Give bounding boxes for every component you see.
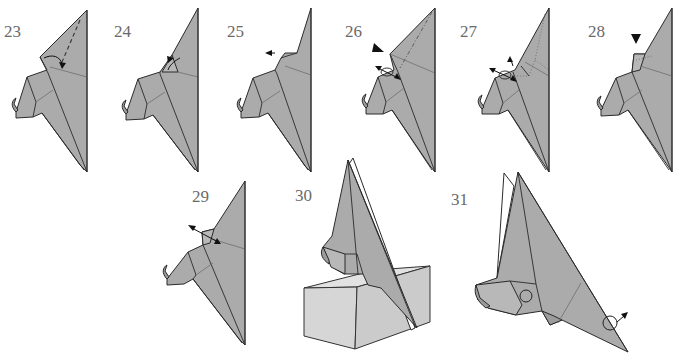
step-29-figure	[150, 175, 290, 361]
arrowhead	[265, 50, 272, 56]
bird-body	[597, 8, 672, 172]
beak	[478, 95, 484, 109]
finished-bird	[475, 172, 628, 352]
arrowhead-left	[188, 225, 196, 231]
step-27: 27	[455, 0, 570, 180]
push-arrow	[631, 34, 641, 44]
bird-body	[478, 8, 549, 172]
push-arrow	[372, 43, 384, 52]
bird-body	[122, 8, 198, 172]
step-31-figure	[440, 160, 678, 361]
bird-body	[237, 8, 311, 172]
beak	[597, 96, 603, 110]
step-23: 23	[0, 0, 110, 180]
beak	[237, 98, 243, 112]
beak	[163, 265, 169, 279]
step-30-figure	[285, 150, 445, 361]
step-28: 28	[570, 0, 678, 180]
bird-body	[12, 10, 87, 172]
box-front	[304, 287, 357, 349]
arrowhead-up	[507, 56, 513, 62]
step-31: 31	[440, 160, 678, 361]
bird-body	[362, 8, 435, 172]
step-29: 29	[150, 175, 290, 361]
bird-body	[163, 181, 245, 345]
step-24-figure	[110, 0, 225, 180]
arrowhead-left	[375, 66, 382, 71]
rotate-arrow	[617, 316, 624, 322]
step-23-figure	[0, 0, 110, 180]
step-24: 24	[110, 0, 225, 180]
beak	[122, 100, 128, 114]
beak	[12, 98, 18, 112]
step-27-figure	[455, 0, 570, 180]
step-30: 30	[285, 150, 445, 361]
beak	[362, 94, 368, 108]
step-28-figure	[570, 0, 678, 180]
